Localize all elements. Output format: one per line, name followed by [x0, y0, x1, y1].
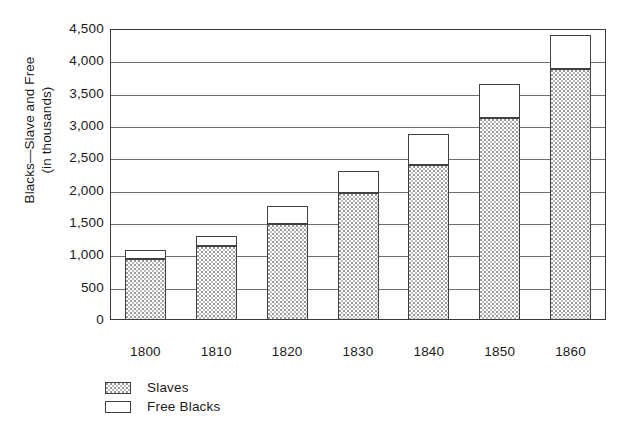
bar-segment-slaves[interactable] — [550, 69, 591, 320]
bar-group[interactable] — [125, 251, 166, 320]
legend-item[interactable]: Free Blacks — [105, 399, 220, 415]
bar-segment-free-blacks[interactable] — [408, 134, 449, 165]
bar-group[interactable] — [408, 135, 449, 320]
bar-segment-slaves[interactable] — [125, 259, 166, 320]
x-tick-label: 1800 — [130, 344, 161, 360]
y-tick-label: 2,000 — [46, 184, 104, 198]
bar-segment-free-blacks[interactable] — [550, 35, 591, 69]
legend-swatch-slaves — [105, 382, 131, 394]
y-tick-label: 4,000 — [46, 54, 104, 68]
legend-label: Slaves — [147, 381, 189, 395]
x-tick-label: 1840 — [413, 344, 444, 360]
y-tick-label: 2,500 — [46, 151, 104, 165]
bars-layer — [110, 29, 606, 320]
y-tick-label: 1,500 — [46, 216, 104, 230]
x-tick-label: 1850 — [484, 344, 515, 360]
bar-segment-slaves[interactable] — [267, 224, 308, 320]
y-tick-label: 4,500 — [46, 22, 104, 36]
bar-segment-free-blacks[interactable] — [479, 84, 520, 118]
x-tick-label: 1830 — [343, 344, 374, 360]
x-axis-tick-labels: 1800181018201830184018501860 — [110, 344, 606, 364]
y-tick-label: 3,000 — [46, 119, 104, 133]
y-axis-tick-labels: 05001,0001,5002,0002,5003,0003,5004,0004… — [44, 0, 104, 429]
y-tick-label: 1,000 — [46, 248, 104, 262]
bar-segment-slaves[interactable] — [408, 165, 449, 320]
bar-segment-free-blacks[interactable] — [196, 236, 237, 246]
bar-segment-free-blacks[interactable] — [338, 171, 379, 193]
x-tick-label: 1860 — [555, 344, 586, 360]
y-tick-label: 3,500 — [46, 87, 104, 101]
chart-legend: SlavesFree Blacks — [105, 380, 220, 418]
legend-label: Free Blacks — [147, 400, 220, 414]
bar-chart: Blacks—Slave and Free (in thousands) 050… — [0, 0, 635, 429]
x-tick-label: 1820 — [272, 344, 303, 360]
bar-segment-slaves[interactable] — [479, 118, 520, 320]
legend-item[interactable]: Slaves — [105, 380, 220, 396]
bar-segment-slaves[interactable] — [338, 193, 379, 320]
bar-group[interactable] — [196, 237, 237, 320]
bar-group[interactable] — [338, 172, 379, 320]
bar-group[interactable] — [267, 207, 308, 320]
y-tick-label: 500 — [46, 281, 104, 295]
y-tick-label: 0 — [46, 313, 104, 327]
legend-swatch-free-blacks — [105, 401, 131, 413]
bar-group[interactable] — [479, 85, 520, 320]
bar-segment-free-blacks[interactable] — [125, 250, 166, 259]
bar-segment-free-blacks[interactable] — [267, 206, 308, 224]
bar-group[interactable] — [550, 36, 591, 320]
y-axis-title-line1: Blacks—Slave and Free — [21, 5, 38, 255]
x-tick-label: 1810 — [201, 344, 232, 360]
bar-segment-slaves[interactable] — [196, 246, 237, 320]
